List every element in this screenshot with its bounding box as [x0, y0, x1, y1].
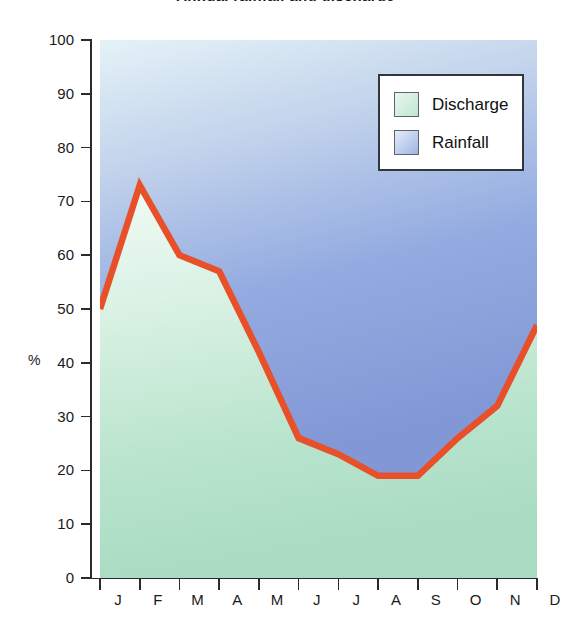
y-tick-mark [81, 39, 90, 41]
legend-swatch-discharge [394, 92, 419, 117]
x-axis-month-label: D [540, 592, 570, 607]
chart-legend: Discharge Rainfall [378, 74, 524, 171]
x-axis-month-label: J [302, 592, 332, 607]
x-tick-mark [496, 578, 498, 590]
y-tick-mark [81, 577, 90, 579]
y-axis-line [90, 39, 92, 579]
x-tick-mark [377, 578, 379, 590]
x-tick-mark [536, 578, 538, 590]
x-tick-mark [139, 578, 141, 590]
y-tick-mark [81, 308, 90, 310]
y-tick-label: 30 [28, 409, 74, 424]
x-tick-mark [218, 578, 220, 590]
x-tick-mark [298, 578, 300, 590]
chart-title: Annual rainfall and discharge [0, 0, 571, 1]
x-axis-month-label: A [381, 592, 411, 607]
x-axis-month-label: M [262, 592, 292, 607]
x-axis-month-label: J [341, 592, 371, 607]
x-tick-mark [258, 578, 260, 590]
y-tick-label: 20 [28, 462, 74, 477]
y-tick-label: 0 [28, 570, 74, 585]
legend-item-rainfall: Rainfall [394, 123, 522, 161]
x-axis-month-label: M [182, 592, 212, 607]
y-tick-label: 50 [28, 301, 74, 316]
legend-label-rainfall: Rainfall [432, 134, 489, 151]
y-tick-label: 40 [28, 355, 74, 370]
x-axis-month-label: N [500, 592, 530, 607]
x-axis-month-label: S [421, 592, 451, 607]
x-tick-mark [179, 578, 181, 590]
y-tick-mark [81, 470, 90, 472]
y-tick-mark [81, 523, 90, 525]
x-axis-month-label: A [222, 592, 252, 607]
x-tick-mark [99, 578, 101, 590]
chart-container: Annual rainfall and discharge [0, 0, 571, 641]
legend-swatch-rainfall [394, 130, 419, 155]
x-axis-month-label: J [103, 592, 133, 607]
y-tick-label: 70 [28, 193, 74, 208]
y-tick-label: 100 [28, 32, 74, 47]
y-tick-label: 90 [28, 86, 74, 101]
y-tick-mark [81, 93, 90, 95]
y-tick-mark [81, 362, 90, 364]
y-tick-mark [81, 147, 90, 149]
x-tick-mark [338, 578, 340, 590]
y-tick-mark [81, 254, 90, 256]
x-axis-month-label: O [461, 592, 491, 607]
legend-item-discharge: Discharge [394, 85, 522, 123]
y-tick-label: 80 [28, 140, 74, 155]
y-tick-label: 60 [28, 247, 74, 262]
y-tick-label: 10 [28, 516, 74, 531]
x-tick-mark [457, 578, 459, 590]
legend-label-discharge: Discharge [432, 96, 509, 113]
y-tick-mark [81, 201, 90, 203]
x-axis-month-label: F [143, 592, 173, 607]
y-tick-mark [81, 416, 90, 418]
x-tick-mark [417, 578, 419, 590]
x-axis-line [90, 578, 538, 580]
